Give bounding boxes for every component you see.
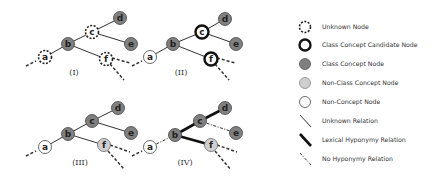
- node-b-label: b: [65, 129, 72, 139]
- node-a-label: a: [42, 142, 48, 152]
- edge-f-out2: [108, 151, 124, 169]
- lexical-hyponymy-icon: [300, 134, 311, 146]
- panel-label: (I): [69, 68, 78, 77]
- legend-label: Unknown Relation: [322, 117, 378, 124]
- no-hyponymy-icon: [300, 153, 311, 165]
- edge-a-out: [132, 151, 142, 156]
- panel-I: a b c d e f (I): [26, 12, 138, 81]
- edge-f-out1: [217, 58, 235, 63]
- node-c-label: c: [197, 116, 202, 126]
- edge-f-out1: [217, 145, 237, 152]
- legend-label: Lexical Hyponymy Relation: [322, 136, 406, 144]
- panel-label: (II): [175, 68, 188, 77]
- legend-label: No Hyponymy Relation: [322, 155, 393, 163]
- legend-label: Class Concept Candidate Node: [322, 41, 418, 49]
- node-c-label: c: [89, 27, 94, 37]
- node-e-label: e: [128, 128, 134, 138]
- node-f-label: f: [209, 140, 213, 150]
- node-d-label: d: [222, 103, 228, 113]
- node-d-label: d: [115, 103, 121, 113]
- node-e-label: e: [128, 39, 134, 49]
- non-concept-node-icon: [300, 97, 311, 108]
- unknown-node-icon: [300, 22, 311, 33]
- panel-II: a b c d e f (II): [132, 13, 243, 81]
- node-d-label: d: [222, 14, 228, 24]
- legend-label: Non-Concept Node: [322, 98, 380, 106]
- legend: Unknown Node Class Concept Candidate Nod…: [300, 22, 418, 166]
- candidate-node-icon: [300, 40, 311, 51]
- node-b-label: b: [170, 39, 177, 49]
- panel-label: (III): [72, 158, 88, 167]
- legend-label: Unknown Node: [322, 23, 369, 30]
- node-d-label: d: [117, 13, 123, 23]
- edge-f-out2: [215, 151, 231, 170]
- panel-IV: a b c d e f (IV): [132, 102, 243, 171]
- legend-label: Non-Class Concept Node: [322, 79, 399, 87]
- node-b-label: b: [172, 130, 179, 140]
- node-a-label: a: [147, 52, 153, 62]
- node-f-label: f: [102, 140, 106, 150]
- edge-f-out1: [112, 58, 130, 63]
- node-b-label: b: [65, 39, 72, 49]
- unknown-relation-icon: [300, 115, 311, 127]
- node-c-label: c: [89, 116, 94, 126]
- edge-f-out2: [110, 64, 124, 80]
- edge-a-out: [132, 61, 142, 66]
- panel-III: a b c d e f (III): [26, 102, 138, 170]
- edge-f-out2: [215, 64, 229, 80]
- class-node-icon: [300, 59, 311, 70]
- edge-a-out: [26, 61, 36, 66]
- node-e-label: e: [233, 128, 239, 138]
- non-class-node-icon: [300, 78, 311, 89]
- legend-label: Class Concept Node: [322, 60, 384, 68]
- node-e-label: e: [233, 39, 239, 49]
- node-f-label: f: [209, 54, 213, 64]
- node-f-label: f: [104, 54, 108, 64]
- edge-a-out: [26, 151, 36, 156]
- node-a-label: a: [147, 142, 153, 152]
- panel-label: (IV): [177, 158, 192, 167]
- edge-f-out1: [110, 145, 130, 152]
- node-c-label: c: [199, 27, 204, 37]
- node-a-label: a: [42, 52, 48, 62]
- diagram-canvas: a b c d e f (I) a b c d e f (II): [0, 0, 436, 181]
